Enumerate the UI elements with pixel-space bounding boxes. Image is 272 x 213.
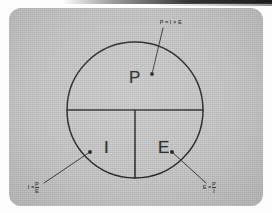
leader-dot-voltage [170, 150, 174, 154]
scan-artifact-band-secondary [150, 3, 272, 6]
photo-card: P I E P = I × E I = P E E = P I [9, 8, 263, 206]
annotation-voltage-lhs: E = [203, 185, 212, 190]
annotation-current-denominator: E [35, 189, 39, 194]
annotation-current-lhs: I = [28, 185, 35, 190]
annotation-current-numerator: P [35, 182, 39, 187]
annotation-current-fraction: P E [35, 182, 39, 194]
leader-dot-power [150, 72, 154, 76]
segment-label-power: P [129, 69, 141, 86]
annotation-power-formula: P = I × E [160, 20, 182, 25]
annotation-voltage-numerator: P [212, 182, 216, 187]
leader-line-power [152, 28, 163, 74]
annotation-voltage-fraction: P I [212, 182, 216, 194]
annotation-voltage-denominator: I [213, 189, 215, 194]
annotation-current-formula: I = P E [28, 182, 39, 194]
leader-dot-current [88, 150, 92, 154]
leader-line-voltage [172, 152, 206, 183]
leader-line-current [44, 152, 90, 183]
segment-label-voltage: E [158, 139, 170, 156]
annotation-voltage-formula: E = P I [203, 182, 216, 194]
segment-label-current: I [104, 139, 109, 156]
screenshot-root: P I E P = I × E I = P E E = P I [0, 0, 272, 213]
power-wheel-drawing [9, 8, 263, 206]
